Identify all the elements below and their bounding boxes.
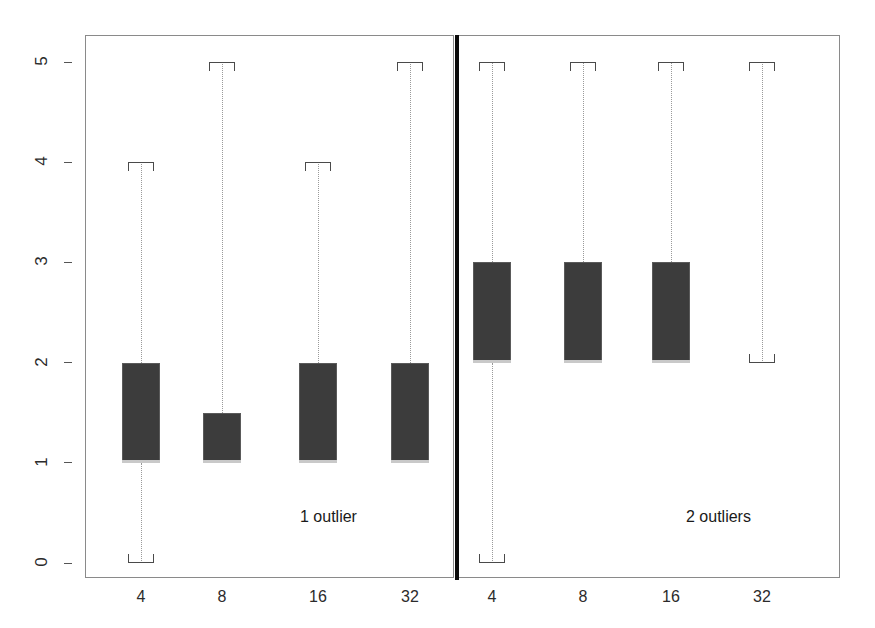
box [203, 413, 241, 463]
box [473, 262, 511, 362]
whisker-cap-lower [479, 554, 505, 563]
box [122, 363, 160, 463]
box [391, 363, 429, 463]
whisker-line [583, 62, 584, 262]
median-line [299, 460, 337, 463]
median-line [391, 460, 429, 463]
x-tick-label: 4 [121, 588, 161, 606]
x-tick-label: 8 [563, 588, 603, 606]
whisker-line [141, 162, 142, 362]
x-tick-label: 32 [742, 588, 782, 606]
boxplot-figure: 012345 1 outlier2 outliers 481632481632 [0, 0, 875, 628]
panel-note: 2 outliers [686, 508, 751, 526]
y-tick-label: 1 [32, 450, 52, 474]
whisker-line [671, 62, 672, 262]
median-line [122, 460, 160, 463]
whisker-cap-upper [397, 62, 423, 71]
whisker-line [222, 62, 223, 413]
y-tick-label: 4 [32, 149, 52, 173]
x-tick-label: 16 [651, 588, 691, 606]
panel-note: 1 outlier [300, 508, 357, 526]
y-tick-label: 2 [32, 350, 52, 374]
y-tick-label: 3 [32, 249, 52, 273]
y-tick-mark [64, 62, 72, 63]
x-tick-label: 16 [298, 588, 338, 606]
whisker-line [492, 363, 493, 563]
whisker-line [492, 62, 493, 262]
x-tick-label: 8 [202, 588, 242, 606]
whisker-line [141, 463, 142, 563]
x-tick-label: 32 [390, 588, 430, 606]
y-tick-label: 0 [32, 550, 52, 574]
y-tick-mark [64, 362, 72, 363]
whisker-line [410, 62, 411, 363]
whisker-cap-upper [749, 62, 775, 71]
y-tick-mark [64, 462, 72, 463]
x-tick-label: 4 [472, 588, 512, 606]
panel-divider [455, 35, 459, 580]
median-line [652, 360, 690, 363]
box [564, 262, 602, 362]
y-tick-mark [64, 563, 72, 564]
whisker-cap-upper [209, 62, 235, 71]
whisker-cap-upper [570, 62, 596, 71]
y-tick-mark [64, 262, 72, 263]
median-line [564, 360, 602, 363]
whisker-cap-upper [128, 162, 154, 171]
median-line [203, 460, 241, 463]
box [299, 363, 337, 463]
box [652, 262, 690, 362]
y-tick-label: 5 [32, 49, 52, 73]
y-tick-mark [64, 162, 72, 163]
median-line [473, 360, 511, 363]
whisker-cap-upper [305, 162, 331, 171]
whisker-cap-lower [749, 354, 775, 363]
whisker-cap-upper [479, 62, 505, 71]
whisker-cap-upper [658, 62, 684, 71]
whisker-cap-lower [128, 554, 154, 563]
whisker-line [318, 162, 319, 362]
panel-frame [457, 35, 840, 578]
whisker-line [762, 62, 763, 363]
